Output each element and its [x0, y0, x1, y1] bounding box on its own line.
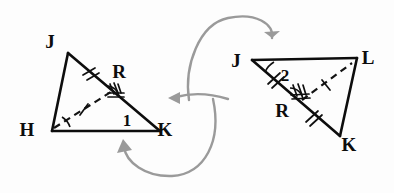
arrow-upper-icon [188, 16, 272, 100]
label-angle-1: 1 [123, 111, 132, 130]
label-right-K: K [342, 134, 357, 155]
segment-JL [252, 58, 357, 60]
angle-mark-J [265, 62, 274, 72]
triangle-HJK: J H K R 1 [20, 31, 173, 140]
angle-mark-R-triple [290, 84, 310, 100]
tick-HR-single [80, 104, 88, 115]
arrow-middle-head-icon [168, 92, 180, 104]
label-angle-2: 2 [281, 66, 290, 85]
label-right-J: J [231, 50, 241, 71]
label-right-R: R [275, 100, 289, 121]
label-left-H: H [20, 119, 35, 140]
arrow-lower-head-icon [117, 139, 132, 153]
label-left-R: R [112, 61, 126, 82]
label-left-J: J [45, 31, 55, 52]
geometry-figure: J H K R 1 [0, 0, 394, 193]
arrow-upper-head-icon [264, 31, 280, 38]
flow-arrow-group [117, 16, 280, 176]
label-left-K: K [158, 119, 173, 140]
label-right-L: L [362, 47, 375, 68]
figure-canvas: J H K R 1 [0, 0, 394, 193]
arrow-middle-icon [176, 94, 228, 99]
triangle-JLK: J L K R 2 [231, 47, 374, 155]
